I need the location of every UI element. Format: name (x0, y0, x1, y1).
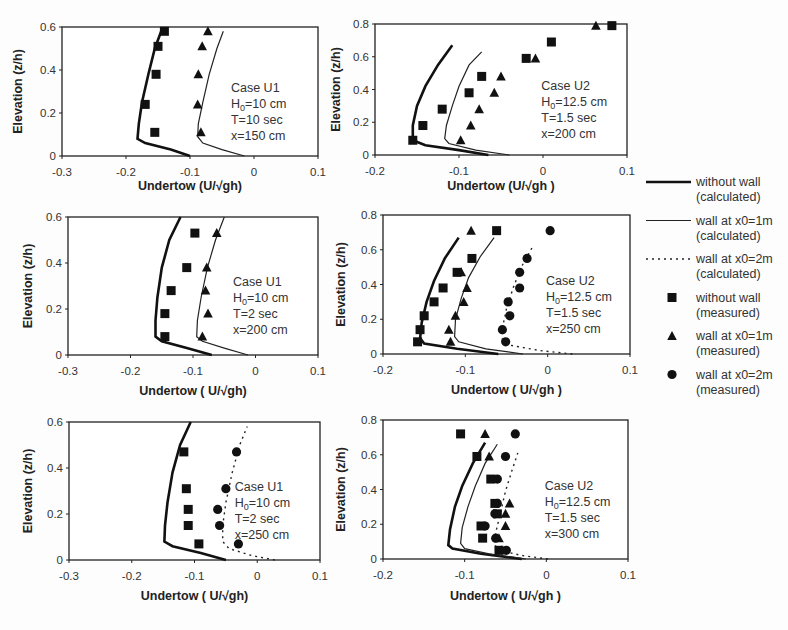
circle-marker (213, 505, 222, 514)
legend-label: wall at x0=2m (695, 252, 773, 266)
y-tick-label: 0.2 (361, 518, 377, 530)
y-axis-label: Elevation (z/h) (11, 49, 25, 134)
square-marker (152, 70, 161, 79)
legend-item: wall at x0=2m(calculated) (646, 252, 773, 281)
y-tick-label: 0.2 (361, 313, 377, 325)
x-tick-label: -0.3 (58, 365, 78, 377)
x-tick-label: -0.1 (183, 365, 203, 377)
case-annotation: T=1.5 sec (546, 306, 601, 320)
square-marker (184, 505, 193, 514)
circle-marker (493, 474, 502, 483)
y-tick-label: 0.2 (47, 508, 63, 520)
circle-marker (491, 534, 500, 543)
circle-marker (667, 370, 676, 379)
y-tick-label: 0.6 (361, 449, 377, 461)
case-annotation: H0=10 cm (231, 97, 286, 113)
x-tick-label: 0.1 (312, 570, 328, 582)
y-tick-label: 0.4 (46, 257, 63, 269)
y-axis-label: Elevation (z/h) (21, 244, 35, 329)
case-annotation: x=250 cm (235, 528, 290, 542)
legend-item: wall at x0=1m(measured) (667, 329, 773, 358)
x-tick-label: 0.1 (310, 166, 326, 178)
x-tick-label: -0.1 (180, 166, 200, 178)
case-annotation: Case U1 (231, 81, 280, 95)
square-marker (150, 128, 159, 137)
square-marker (607, 21, 616, 30)
case-annotation: Case U1 (235, 480, 284, 494)
y-tick-label: 0.2 (46, 303, 62, 315)
square-marker (182, 263, 191, 272)
x-axis-label: Undertow (U/√gh ) (447, 179, 555, 193)
circle-marker (504, 297, 513, 306)
x-tick-label: 0 (252, 365, 258, 377)
square-marker (522, 54, 531, 63)
x-tick-label: 0.1 (619, 165, 635, 177)
x-tick-label: -0.2 (373, 569, 393, 581)
square-marker (416, 325, 425, 334)
y-tick-label: 0.4 (361, 279, 378, 291)
square-marker (472, 452, 481, 461)
square-marker (179, 447, 188, 456)
circle-marker (221, 484, 230, 493)
legend-sublabel: (measured) (696, 383, 760, 397)
case-annotation: x=250 cm (546, 322, 601, 336)
x-tick-label: -0.3 (59, 570, 79, 582)
circle-marker (480, 521, 489, 530)
x-tick-label: 0 (251, 166, 257, 178)
legend: without wall(calculated)wall at x0=1m(ca… (646, 175, 773, 397)
y-tick-label: 0.6 (40, 21, 56, 33)
case-annotation: T=1.5 sec (545, 511, 600, 525)
case-annotation: T=2 sec (235, 512, 280, 526)
triangle-marker (667, 331, 677, 340)
legend-item: without wall(calculated) (646, 175, 761, 204)
square-marker (154, 42, 163, 51)
x-axis-label: Undertow (U/√gh) (138, 179, 242, 193)
square-marker (547, 38, 556, 47)
y-tick-label: 0.6 (353, 51, 369, 63)
y-tick-label: 0 (371, 553, 377, 565)
legend-label: wall at x0=1m (695, 214, 773, 228)
square-marker (194, 539, 203, 548)
legend-item: wall at x0=1m(calculated) (646, 214, 773, 243)
y-tick-label: 0.4 (353, 84, 370, 96)
square-marker (477, 72, 486, 81)
y-tick-label: 0.2 (353, 116, 369, 128)
square-marker (420, 311, 429, 320)
x-tick-label: -0.2 (373, 364, 393, 376)
square-marker (478, 534, 487, 543)
case-annotation: Case U1 (233, 275, 282, 289)
legend-label: without wall (695, 175, 761, 189)
x-tick-label: -0.2 (116, 166, 136, 178)
case-annotation: T=1.5 sec (541, 111, 596, 125)
square-marker (182, 484, 191, 493)
square-marker (465, 88, 474, 97)
square-marker (456, 429, 465, 438)
square-marker (160, 332, 169, 341)
circle-marker (215, 521, 224, 530)
square-marker (668, 293, 677, 302)
case-annotation: Case U2 (541, 79, 590, 93)
x-axis-label: Undertow ( U/√gh ) (450, 589, 561, 603)
circle-marker (505, 311, 514, 320)
square-marker (160, 27, 169, 36)
y-tick-label: 0.8 (353, 18, 369, 30)
square-marker (408, 136, 417, 145)
square-marker (160, 309, 169, 318)
legend-label: wall at x0=2m (695, 368, 773, 382)
case-annotation: H0=10 cm (235, 496, 290, 512)
case-annotation: x=300 cm (545, 527, 600, 541)
legend-label: wall at x0=1m (695, 329, 773, 343)
square-marker (418, 121, 427, 130)
x-axis-label: Undertow ( U/√gh) (139, 384, 247, 398)
x-tick-label: 0 (540, 165, 546, 177)
circle-marker (232, 447, 241, 456)
case-annotation: Case U2 (546, 274, 595, 288)
circle-marker (522, 254, 531, 263)
chart-panel-6: 00.20.40.60.8-0.2-0.100.1Undertow ( U/√g… (334, 414, 636, 603)
square-marker (190, 229, 199, 238)
square-marker (413, 337, 422, 346)
square-marker (492, 226, 501, 235)
x-tick-label: -0.1 (185, 570, 205, 582)
circle-marker (493, 499, 502, 508)
legend-sublabel: (calculated) (696, 229, 761, 243)
